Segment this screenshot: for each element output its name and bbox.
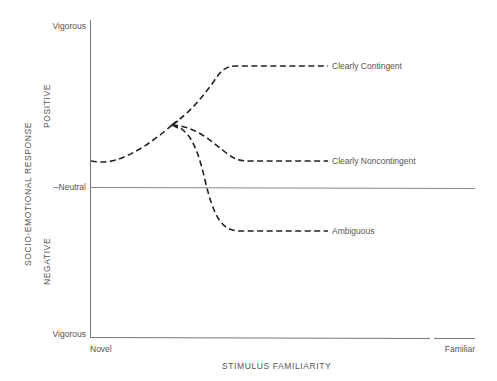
- y-tick-bottom: Vigorous: [53, 329, 86, 339]
- x-tick-familiar: Familiar: [445, 344, 475, 354]
- series-common-path: [91, 125, 172, 162]
- label-ambiguous: Ambiguous: [332, 226, 375, 236]
- label-clearly-noncontingent: Clearly Noncontingent: [332, 156, 416, 166]
- chart: Vigorous –Neutral Vigorous POSITIVE NEGA…: [0, 0, 497, 381]
- y-tick-top: Vigorous: [53, 21, 86, 31]
- y-axis-title: SOCIO-EMOTIONAL RESPONSE: [23, 122, 33, 266]
- series-clearly-contingent: [172, 66, 328, 125]
- y-region-negative: NEGATIVE: [42, 238, 52, 285]
- neutral-line: [90, 188, 475, 189]
- series-clearly-noncontingent: [172, 125, 328, 161]
- x-axis-title: STIMULUS FAMILIARITY: [222, 361, 331, 371]
- x-tick-novel: Novel: [90, 344, 112, 354]
- y-region-positive: POSITIVE: [42, 84, 52, 128]
- y-tick-neutral: –Neutral: [54, 182, 86, 192]
- series-ambiguous: [172, 125, 328, 231]
- label-clearly-contingent: Clearly Contingent: [332, 61, 403, 71]
- x-axis: [90, 338, 430, 339]
